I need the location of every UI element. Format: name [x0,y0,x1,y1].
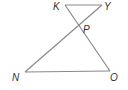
label-p: P [83,24,90,35]
label-n: N [12,72,20,83]
label-o: O [110,72,118,83]
label-y: Y [104,1,112,12]
segment-yn [25,5,102,72]
segment-no [25,71,110,72]
geometry-diagram: K Y P N O [0,0,128,90]
label-k: K [53,1,61,12]
segment-ko [65,5,110,71]
